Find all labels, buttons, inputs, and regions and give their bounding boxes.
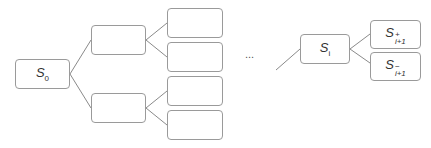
node-level2-1 — [167, 8, 223, 38]
node-level2-2 — [167, 42, 223, 72]
node-si1-plus-label: S+i+1 — [385, 25, 406, 45]
node-level2-4 — [167, 110, 223, 140]
tree-diagram: S0 ... Si S+i+1 S−i+1 — [0, 0, 431, 148]
node-level1-top — [91, 25, 146, 55]
node-s0: S0 — [15, 59, 70, 89]
node-s0-label: S0 — [36, 65, 49, 83]
node-level2-3 — [167, 76, 223, 106]
node-level1-bottom — [91, 93, 146, 123]
node-si1-minus-label: S−i+1 — [385, 57, 406, 77]
ellipsis: ... — [245, 48, 254, 60]
node-si1-plus: S+i+1 — [370, 20, 421, 49]
node-si1-minus: S−i+1 — [370, 52, 421, 81]
node-si: Si — [300, 34, 350, 64]
node-si-label: Si — [320, 40, 330, 58]
